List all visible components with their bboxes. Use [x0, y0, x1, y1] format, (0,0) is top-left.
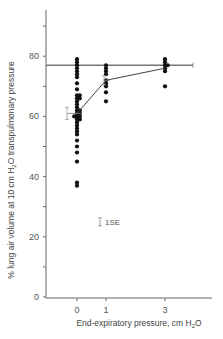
x-tick-label: 3	[162, 305, 167, 315]
x-tick-label: 0	[74, 305, 79, 315]
data-point	[104, 90, 108, 94]
data-point	[75, 150, 79, 154]
data-point	[75, 138, 79, 142]
data-point	[75, 184, 79, 188]
y-tick-label: 0	[34, 292, 39, 302]
x-tick-label: 1	[103, 305, 108, 315]
y-tick-label: 20	[29, 232, 39, 242]
data-point	[75, 132, 79, 136]
annotations: 1SE	[98, 218, 120, 227]
chart: 020406080013 1SE End-expiratory pressure…	[0, 0, 223, 339]
y-tick-label: 40	[29, 172, 39, 182]
axes: 020406080013	[29, 10, 212, 315]
se-legend-label: 1SE	[105, 218, 120, 227]
data-point	[75, 159, 79, 163]
x-axis-label: End-expiratory pressure, cm H2O	[76, 318, 202, 329]
data-point	[104, 99, 108, 103]
data-point	[163, 84, 167, 88]
data-point	[75, 75, 79, 79]
data-point	[75, 144, 79, 148]
reference-line	[46, 63, 193, 68]
y-tick-label: 60	[29, 111, 39, 121]
y-tick-label: 80	[29, 51, 39, 61]
data-point	[75, 87, 79, 91]
data-points	[72, 57, 170, 188]
data-point	[163, 69, 167, 73]
data-point	[75, 81, 79, 85]
y-axis-label: % lung air volume at 10 cm H2O transpulm…	[6, 61, 17, 279]
